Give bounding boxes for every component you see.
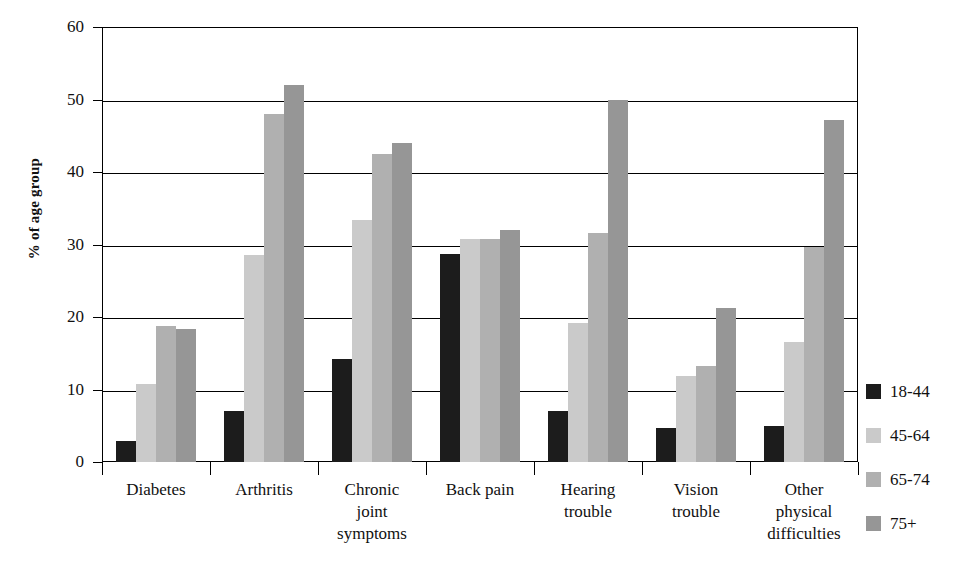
bar [116,441,136,462]
bar [784,342,804,462]
bar [588,233,608,462]
bar [224,411,244,462]
bar-group [332,27,412,462]
x-axis-label: Chronic joint symptoms [318,479,426,544]
bar [352,220,372,462]
legend-swatch-icon [866,384,881,399]
bar [500,230,520,462]
bar [136,384,156,462]
bar [264,114,284,462]
bar [676,376,696,462]
bar [392,143,412,462]
bar [764,426,784,462]
legend-item[interactable]: 45-64 [866,427,930,444]
legend-swatch-icon [866,472,881,487]
y-axis-title: % of age group [26,129,43,289]
bars-layer [102,27,858,462]
x-axis-label: Back pain [426,479,534,501]
x-axis-tick [318,462,319,475]
bar [716,308,736,462]
bar-group [440,27,520,462]
x-axis-tick [858,462,859,475]
legend-swatch-icon [866,428,881,443]
y-axis-label: 20 [42,308,84,325]
bar [568,323,588,462]
x-axis-tick [534,462,535,475]
y-axis-label: 30 [42,236,84,253]
y-axis-tick [93,462,102,463]
bar [176,329,196,462]
x-axis-label: Vision trouble [642,479,750,523]
y-axis-label: 40 [42,163,84,180]
y-axis-tick [93,390,102,391]
bar [284,85,304,462]
y-axis-tick [93,27,102,28]
bar [372,154,392,462]
x-axis-label: Arthritis [210,479,318,501]
x-axis-label: Other physical difficulties [750,479,858,544]
y-axis-tick [93,245,102,246]
bar-group [656,27,736,462]
legend-label: 75+ [890,515,917,532]
bar [460,239,480,462]
y-axis-tick [93,100,102,101]
legend-item[interactable]: 18-44 [866,383,930,400]
y-axis-tick [93,172,102,173]
x-axis-tick [210,462,211,475]
bar [804,247,824,462]
x-axis-tick [426,462,427,475]
y-axis-label: 60 [42,18,84,35]
y-axis-tick [93,317,102,318]
x-axis-tick [102,462,103,475]
bar [656,428,676,462]
bar [244,255,264,462]
bar [480,239,500,462]
y-axis-label: 0 [42,453,84,470]
legend-label: 45-64 [890,427,930,444]
legend-swatch-icon [866,516,881,531]
x-axis-label: Hearing trouble [534,479,642,523]
bar [548,411,568,462]
x-axis-tick [642,462,643,475]
y-axis-label: 10 [42,381,84,398]
grouped-bar-chart: % of age group 0102030405060 DiabetesArt… [0,0,956,571]
bar [440,254,460,462]
bar [156,326,176,462]
bar [608,100,628,463]
legend-label: 65-74 [890,471,930,488]
y-axis-label: 50 [42,91,84,108]
x-axis-tick [750,462,751,475]
legend-label: 18-44 [890,383,930,400]
bar-group [116,27,196,462]
bar-group [224,27,304,462]
x-axis-label: Diabetes [102,479,210,501]
legend-item[interactable]: 75+ [866,515,917,532]
bar [332,359,352,462]
bar-group [548,27,628,462]
bar [824,120,844,462]
bar [696,366,716,462]
bar-group [764,27,844,462]
legend-item[interactable]: 65-74 [866,471,930,488]
